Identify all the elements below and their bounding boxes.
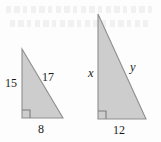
left-triangle-hypotenuse-label: 17 xyxy=(42,71,54,83)
right-triangle-shape xyxy=(98,14,146,119)
right-triangle-base-label: 12 xyxy=(113,124,125,136)
right-triangle-hypotenuse-label: y xyxy=(130,61,136,74)
right-triangle-vertical-leg-label: x xyxy=(88,67,94,80)
left-triangle-vertical-leg-label: 15 xyxy=(5,77,17,89)
triangles-svg xyxy=(0,0,161,142)
left-triangle-base-label: 8 xyxy=(38,123,44,135)
geometry-figure: 15 17 8 x y 12 xyxy=(0,0,161,142)
